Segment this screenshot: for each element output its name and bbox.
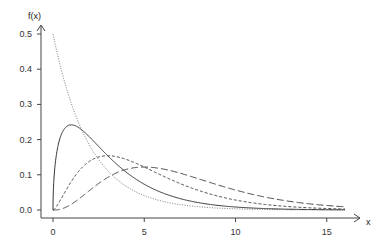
x-tick-label: 15 xyxy=(322,227,332,237)
x-tick-label: 0 xyxy=(50,227,55,237)
curve-df-5 xyxy=(53,156,345,210)
y-tick-label: 0.5 xyxy=(19,29,32,39)
y-tick-label: 0.4 xyxy=(19,64,32,74)
x-axis-title: x xyxy=(366,217,371,227)
y-tick-label: 0.1 xyxy=(19,170,32,180)
x-tick-label: 5 xyxy=(142,227,147,237)
chart: f(x) 0.00.10.20.30.40.5 x 051015 xyxy=(0,0,385,251)
y-axis: f(x) 0.00.10.20.30.40.5 xyxy=(19,11,45,218)
curve-df-2 xyxy=(53,34,345,210)
curve-df-3 xyxy=(53,125,345,210)
curve-df-7 xyxy=(53,167,345,210)
x-axis: x 051015 xyxy=(41,214,371,237)
y-axis-title: f(x) xyxy=(28,11,41,21)
y-tick-label: 0.3 xyxy=(19,99,32,109)
x-tick-label: 10 xyxy=(230,227,240,237)
plot-area xyxy=(53,34,345,210)
y-tick-label: 0.0 xyxy=(19,205,32,215)
y-tick-label: 0.2 xyxy=(19,135,32,145)
